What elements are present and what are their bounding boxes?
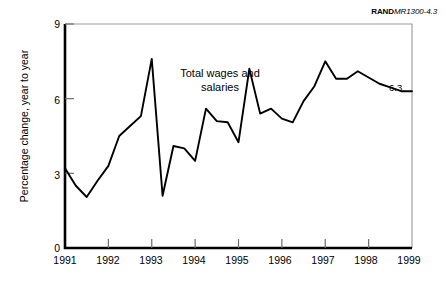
x-tick-label-1994: 1994 bbox=[174, 255, 214, 265]
y-tick-label-9: 9 bbox=[44, 19, 60, 29]
y-tick-label-0: 0 bbox=[44, 243, 60, 253]
x-tick-label-1997: 1997 bbox=[303, 255, 343, 265]
chart-figure: RANDMR1300-4.3 Percentage change, year t… bbox=[0, 0, 445, 290]
x-tick-label-1991: 1991 bbox=[45, 255, 85, 265]
y-tick-label-6: 6 bbox=[44, 95, 60, 105]
rand-source-id: RANDMR1300-4.3 bbox=[371, 7, 437, 16]
rand-logo-text: RAND bbox=[371, 7, 394, 16]
x-tick-label-1992: 1992 bbox=[88, 255, 128, 265]
axis-ticks bbox=[65, 24, 369, 248]
x-tick-label-1995: 1995 bbox=[217, 255, 257, 265]
x-tick-label-1998: 1998 bbox=[346, 255, 386, 265]
series-annotation-text: Total wages and salaries bbox=[180, 67, 260, 93]
plot-area bbox=[0, 0, 445, 290]
y-axis-label: Percentage change, year to year bbox=[18, 16, 30, 236]
x-tick-label-1996: 1996 bbox=[260, 255, 300, 265]
x-tick-label-1993: 1993 bbox=[131, 255, 171, 265]
end-point-value-label: 6.3 bbox=[389, 82, 402, 93]
x-tick-label-1999: 1999 bbox=[389, 255, 429, 265]
y-tick-label-3: 3 bbox=[44, 170, 60, 180]
report-number-text: MR1300-4.3 bbox=[394, 7, 437, 16]
series-annotation: Total wages and salaries bbox=[170, 66, 270, 94]
